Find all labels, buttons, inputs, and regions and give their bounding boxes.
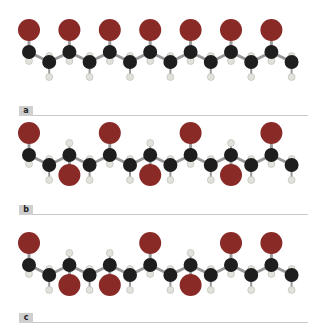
substituent-atom [58,164,80,186]
carbon-atom [285,55,299,69]
hydrogen-atom [46,287,53,294]
hydrogen-atom [288,287,295,294]
carbon-atom [83,158,97,172]
atoms [18,19,299,81]
substituent-atom [220,164,242,186]
hydrogen-atom [66,140,73,147]
substituent-atom [58,19,80,41]
substituent-atom [99,122,121,144]
carbon-atom [103,148,117,162]
carbon-atom [42,158,56,172]
panel-label-b: b [19,205,33,215]
panel-a: a [0,0,322,122]
substituent-atom [180,274,202,296]
carbon-atom [62,258,76,272]
carbon-atom [224,258,238,272]
hydrogen-atom [46,177,53,184]
hydrogen-atom [127,177,134,184]
carbon-atom [163,158,177,172]
hydrogen-atom [167,177,174,184]
carbon-atom [204,55,218,69]
polymer-chain-c [0,223,322,318]
hydrogen-atom [167,287,174,294]
hydrogen-atom [86,177,93,184]
carbon-atom [22,258,36,272]
carbon-atom [163,55,177,69]
polymer-chain-b [0,113,322,208]
hydrogen-atom [106,250,113,257]
carbon-atom [143,148,157,162]
substituent-atom [220,19,242,41]
carbon-atom [224,148,238,162]
carbon-atom [22,148,36,162]
substituent-atom [18,19,40,41]
carbon-atom [204,268,218,282]
hydrogen-atom [127,287,134,294]
substituent-atom [260,19,282,41]
carbon-atom [285,268,299,282]
carbon-atom [42,55,56,69]
substituent-atom [220,232,242,254]
panel-c: c [0,223,322,334]
substituent-atom [180,122,202,144]
carbon-atom [224,45,238,59]
carbon-atom [123,55,137,69]
carbon-atom [103,45,117,59]
hydrogen-atom [86,74,93,81]
carbon-atom [123,158,137,172]
hydrogen-atom [187,250,194,257]
carbon-atom [285,158,299,172]
hydrogen-atom [86,287,93,294]
carbon-atom [264,258,278,272]
substituent-atom [139,232,161,254]
hydrogen-atom [66,250,73,257]
carbon-atom [264,148,278,162]
substituent-atom [18,122,40,144]
carbon-atom [204,158,218,172]
hydrogen-atom [248,74,255,81]
panel-label-c: c [19,313,33,323]
hydrogen-atom [167,74,174,81]
carbon-atom [143,45,157,59]
hydrogen-atom [248,287,255,294]
substituent-atom [99,274,121,296]
carbon-atom [62,45,76,59]
hydrogen-atom [288,177,295,184]
carbon-atom [244,158,258,172]
hydrogen-atom [207,74,214,81]
substituent-atom [260,122,282,144]
carbon-atom [62,148,76,162]
substituent-atom [18,232,40,254]
carbon-atom [184,148,198,162]
atoms [18,232,299,296]
hydrogen-atom [147,140,154,147]
hydrogen-atom [288,74,295,81]
substituent-atom [139,19,161,41]
carbon-atom [22,45,36,59]
carbon-atom [184,45,198,59]
panel-b: b [0,113,322,223]
carbon-atom [184,258,198,272]
carbon-atom [163,268,177,282]
hydrogen-atom [207,287,214,294]
carbon-atom [103,258,117,272]
substituent-atom [180,19,202,41]
substituent-atom [58,274,80,296]
carbon-atom [143,258,157,272]
carbon-atom [264,45,278,59]
substituent-atom [260,232,282,254]
substituent-atom [139,164,161,186]
hydrogen-atom [46,74,53,81]
carbon-atom [83,55,97,69]
carbon-atom [42,268,56,282]
substituent-atom [99,19,121,41]
carbon-atom [244,268,258,282]
carbon-atom [83,268,97,282]
hydrogen-atom [127,74,134,81]
hydrogen-atom [228,140,235,147]
atoms [18,122,299,186]
divider-line-b [33,214,308,215]
hydrogen-atom [207,177,214,184]
divider-line-c [33,322,308,323]
carbon-atom [244,55,258,69]
